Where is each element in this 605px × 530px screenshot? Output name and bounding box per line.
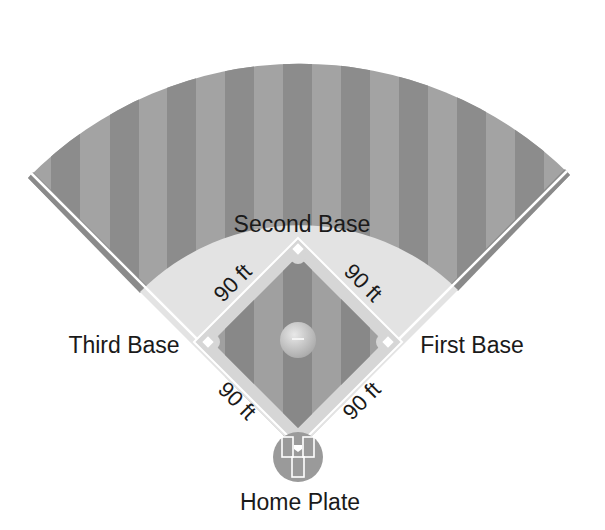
- baseball-field-diagram: Second Base Third Base First Base Home P…: [0, 0, 605, 530]
- second-base-label: Second Base: [234, 211, 371, 237]
- first-base-label: First Base: [420, 332, 524, 358]
- pitchers-rubber: [292, 338, 304, 340]
- home-plate-label: Home Plate: [240, 489, 360, 515]
- third-base-label: Third Base: [68, 332, 179, 358]
